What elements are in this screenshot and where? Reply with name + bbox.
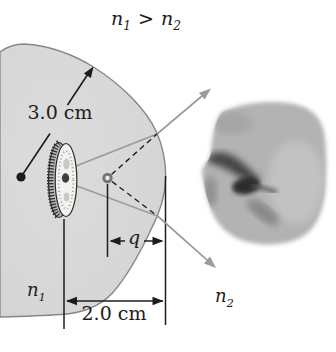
n2-label: n2 bbox=[215, 287, 234, 309]
photo-grain bbox=[196, 96, 336, 252]
optics-figure: n1>n2 3.0 cm n1 n2 q 2.0 cm bbox=[0, 0, 336, 352]
diagram-canvas bbox=[0, 0, 336, 352]
image-point bbox=[104, 174, 111, 181]
q-label: q bbox=[125, 228, 143, 248]
coin-engraving-upper bbox=[63, 159, 69, 170]
relation-n2: n bbox=[161, 7, 173, 29]
observer-eye-photo bbox=[196, 96, 336, 252]
radius-label: 3.0 cm bbox=[27, 103, 93, 123]
coin-engraving-lower bbox=[64, 193, 70, 202]
refracted-ray-upper bbox=[157, 96, 202, 134]
coin bbox=[49, 143, 77, 218]
sphere-center-dot bbox=[16, 172, 25, 181]
q-dim-right-arrowhead-icon bbox=[153, 237, 164, 245]
n1-label: n1 bbox=[27, 281, 46, 303]
eye-photo-shading bbox=[196, 96, 336, 252]
distance-dim-right-arrowhead-icon bbox=[153, 297, 164, 305]
coin-portrait bbox=[62, 173, 69, 182]
distance-label: 2.0 cm bbox=[74, 304, 154, 324]
relation-label: n1>n2 bbox=[96, 9, 196, 33]
relation-n1: n bbox=[111, 7, 123, 29]
